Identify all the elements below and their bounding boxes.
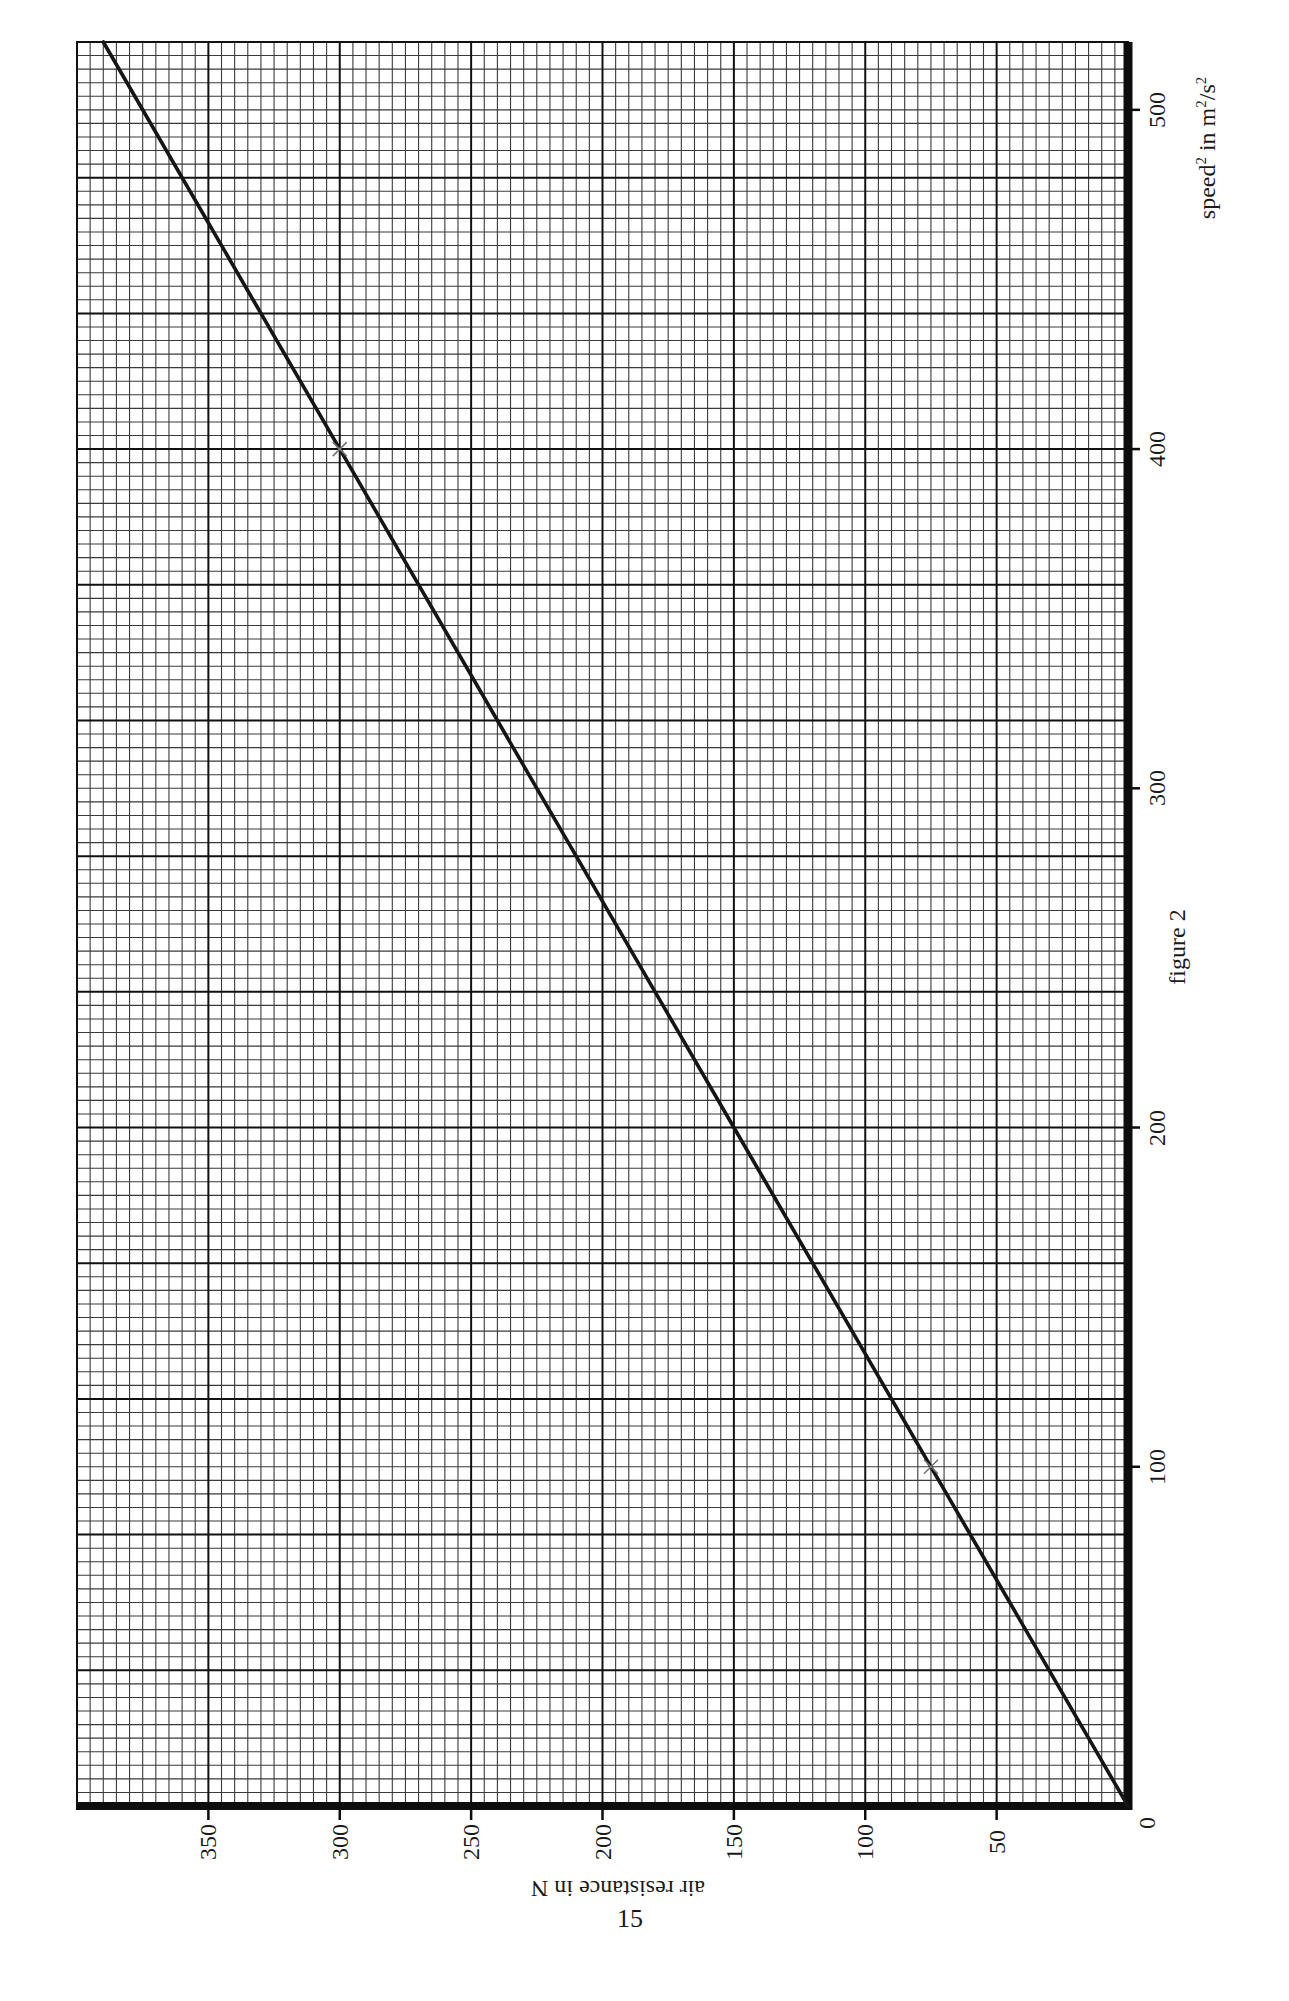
figure-caption: figure 2 — [1164, 909, 1191, 984]
speed-squared-tick-label: 0 — [1134, 1817, 1161, 1829]
air-resistance-tick-label: 250 — [458, 1824, 485, 1860]
x-title-sup: 2 — [1193, 157, 1209, 164]
x-title-base: speed — [1194, 165, 1220, 220]
graph-paper-chart — [0, 0, 1289, 2001]
x-title-tail: /s — [1194, 84, 1220, 100]
speed-squared-tick-label: 100 — [1144, 1449, 1171, 1485]
speed-squared-tick-label: 500 — [1144, 92, 1171, 128]
y-axis-title: air resistance in N — [531, 1875, 705, 1902]
air-resistance-tick-label: 150 — [720, 1824, 747, 1860]
air-resistance-tick-label: 100 — [852, 1824, 879, 1860]
speed-squared-tick-label: 300 — [1144, 770, 1171, 806]
air-resistance-tick-label: 300 — [326, 1824, 353, 1860]
speed-squared-tick-label: 400 — [1144, 431, 1171, 467]
x-title-mid: in m — [1194, 108, 1220, 157]
x-title-sup: 2 — [1193, 100, 1209, 107]
x-axis-title: speed2 in m2/s2 — [1194, 77, 1221, 219]
air-resistance-tick-label: 200 — [589, 1824, 616, 1860]
air-resistance-tick-label: 350 — [195, 1824, 222, 1860]
x-title-sup: 2 — [1193, 77, 1209, 84]
air-resistance-tick-label: 50 — [983, 1830, 1010, 1854]
page-number: 15 — [617, 1904, 643, 1934]
speed-squared-tick-label: 200 — [1144, 1110, 1171, 1146]
